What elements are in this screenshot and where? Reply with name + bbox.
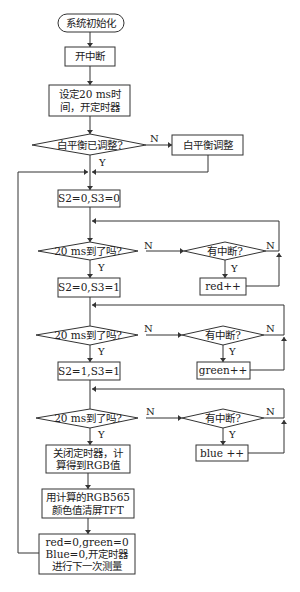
node-fill-tft-line2: 颜色值清屏TFT (52, 504, 123, 516)
node-interrupt-3-label: 有中断? (205, 412, 241, 424)
node-close-timer-line1: 关闭定时器，计 (53, 447, 124, 459)
node-s-11-label: S2=1,S3=1 (58, 365, 120, 377)
node-s-00-label: S2=0,S3=0 (58, 192, 120, 204)
node-close-timer: 关闭定时器，计 算得到RGB值 (46, 445, 130, 473)
node-interrupt-2: 有中断? (182, 326, 264, 345)
node-enable-interrupt-label: 开中断 (75, 50, 106, 62)
node-green-inc-label: green++ (199, 364, 248, 376)
node-s-01: S2=0,S3=1 (58, 278, 120, 297)
node-reset-line2: Blue=0,开定时器 (46, 548, 130, 560)
node-fill-tft-line1: 用计算的RGB565 (46, 491, 130, 503)
node-s-11: S2=1,S3=1 (58, 362, 120, 380)
flowchart: 系统初始化 开中断 设定20 ms时 间，开定时器 白平衡已调整? N Y 白平… (0, 0, 300, 592)
node-red-inc: red++ (200, 278, 246, 295)
node-blue-inc: blue ++ (196, 445, 248, 461)
node-wb-adjust-label: 白平衡调整 (183, 139, 234, 151)
node-green-inc: green++ (197, 362, 250, 379)
node-enable-interrupt: 开中断 (65, 47, 115, 66)
timeout-1-no-label: N (144, 240, 153, 251)
wb-check-no-label: N (150, 133, 159, 144)
node-timeout-1: 20 ms到了吗? (38, 242, 138, 260)
node-interrupt-1-label: 有中断? (207, 245, 243, 257)
node-set-timer-line1: 设定20 ms时 (59, 88, 122, 100)
node-red-inc-label: red++ (205, 280, 241, 292)
interrupt-2-no-label: N (266, 323, 275, 334)
node-timeout-3: 20 ms到了吗? (36, 409, 138, 428)
node-timeout-3-label: 20 ms到了吗? (54, 412, 122, 424)
node-interrupt-2-label: 有中断? (205, 329, 241, 341)
node-interrupt-1: 有中断? (184, 242, 266, 260)
timeout-3-yes-label: Y (97, 429, 105, 440)
node-s-01-label: S2=0,S3=1 (58, 281, 120, 293)
timeout-1-yes-label: Y (97, 262, 105, 273)
node-close-timer-line2: 算得到RGB值 (56, 459, 121, 471)
node-set-timer: 设定20 ms时 间，开定时器 (49, 85, 130, 116)
timeout-2-yes-label: Y (97, 346, 105, 357)
node-timeout-1-label: 20 ms到了吗? (54, 245, 122, 257)
interrupt-1-no-label: N (266, 240, 275, 251)
wb-check-yes-label: Y (98, 157, 106, 168)
node-timeout-2: 20 ms到了吗? (36, 326, 138, 345)
node-timeout-2-label: 20 ms到了吗? (54, 329, 122, 341)
timeout-2-no-label: N (144, 323, 153, 334)
node-fill-tft: 用计算的RGB565 颜色值清屏TFT (42, 489, 134, 518)
node-reset-line1: red=0,green=0 (45, 536, 128, 548)
node-wb-check-label: 白平衡已调整? (57, 139, 123, 151)
interrupt-3-yes-label: Y (228, 429, 236, 440)
node-blue-inc-label: blue ++ (200, 447, 244, 459)
node-start-label: 系统初始化 (66, 17, 117, 29)
node-start: 系统初始化 (58, 14, 124, 32)
interrupt-3-no-label: N (266, 406, 275, 417)
interrupt-1-yes-label: Y (230, 263, 238, 274)
timeout-3-no-label: N (146, 406, 155, 417)
interrupt-2-yes-label: Y (228, 346, 236, 357)
node-reset: red=0,green=0 Blue=0,开定时器 进行下一次测量 (39, 534, 135, 574)
node-s-00: S2=0,S3=0 (58, 190, 120, 207)
node-interrupt-3: 有中断? (182, 409, 264, 428)
node-set-timer-line2: 间，开定时器 (60, 101, 121, 113)
node-reset-line3: 进行下一次测量 (52, 560, 123, 572)
node-wb-adjust: 白平衡调整 (172, 135, 243, 155)
node-wb-check: 白平衡已调整? (32, 134, 146, 155)
